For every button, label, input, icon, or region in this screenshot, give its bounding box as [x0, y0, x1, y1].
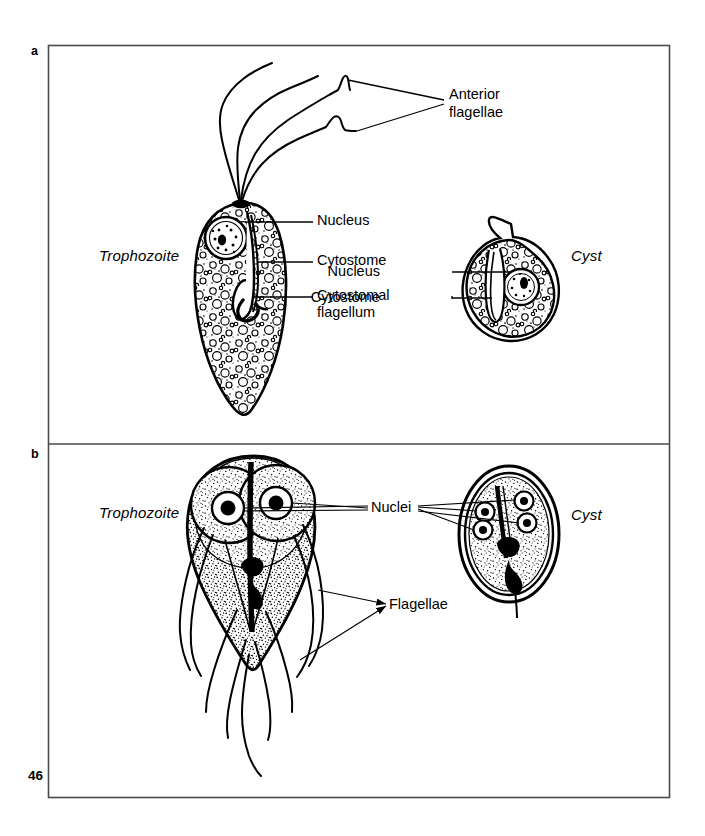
figure-illustration: [0, 0, 705, 836]
label-cyst-cytostome: Cytostome: [311, 289, 380, 306]
panel-b-cyst-cell: [459, 466, 559, 618]
panel-a-cyst-cytostome: [486, 249, 505, 322]
label-trophozoite-a: Trophozoite: [99, 247, 179, 264]
label-cyst-nucleus: Nucleus: [328, 263, 380, 280]
label-cyst-a: Cyst: [571, 247, 602, 264]
panel-a-trophozoite-cell: [195, 200, 286, 415]
panel-a-cyst-cell: [463, 217, 559, 341]
figure-frame: [49, 46, 670, 798]
label-cyst-b: Cyst: [571, 506, 602, 523]
label-anterior-flagellae-line2: flagellae: [449, 104, 503, 121]
panel-b-illustration: [180, 456, 559, 776]
anterior-flagellae-strands: [220, 63, 356, 201]
panel-a-nucleus: [205, 217, 247, 259]
label-trophozoite-b: Trophozoite: [99, 504, 179, 521]
panel-b-nucleus-right: [260, 487, 292, 519]
page-number: 46: [28, 768, 43, 783]
figure-root: a b 46 Anterior flagellae Nucleus Cytost…: [0, 0, 705, 836]
panel-a-letter: a: [31, 44, 38, 58]
label-anterior-flagellae-line1: Anterior: [449, 86, 500, 103]
label-flagellae: Flagellae: [389, 596, 448, 613]
panel-b-letter: b: [31, 447, 39, 461]
panel-b-nucleus-left: [212, 492, 244, 524]
label-nuclei: Nuclei: [371, 499, 411, 516]
label-nucleus: Nucleus: [317, 212, 369, 229]
label-cytostomal-flagellum-line2: flagellum: [317, 304, 375, 321]
panel-a-cyst-nucleus: [503, 269, 539, 305]
panel-a-illustration: [195, 63, 559, 415]
